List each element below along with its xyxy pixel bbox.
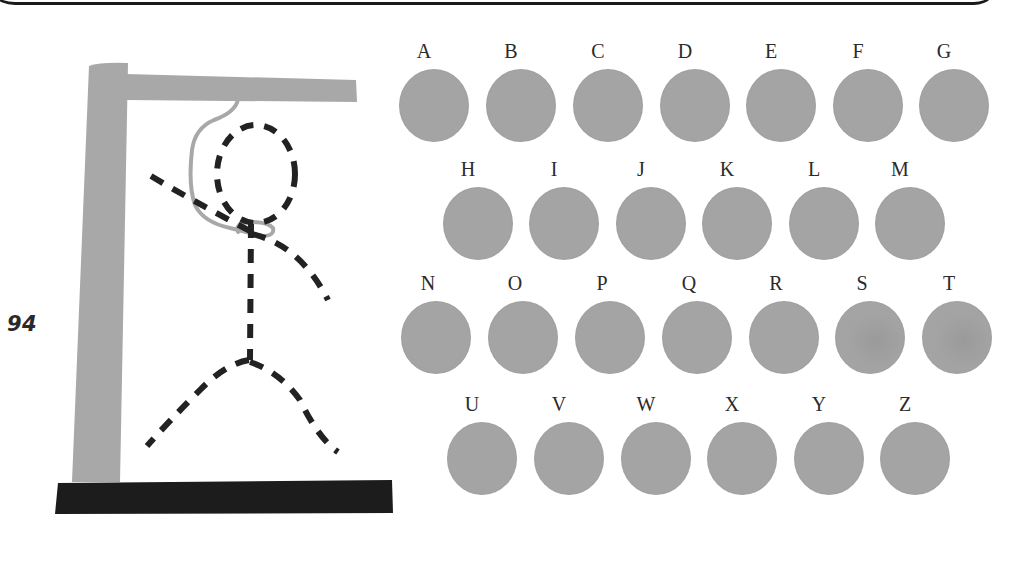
letter-circle[interactable] — [794, 422, 864, 495]
gallows-beam — [126, 74, 357, 102]
gallows-post — [72, 63, 128, 482]
letter-button-g[interactable]: G — [918, 40, 990, 144]
figure-head — [217, 125, 295, 223]
letter-circle[interactable] — [835, 301, 905, 374]
letter-circle[interactable] — [399, 69, 469, 142]
letter-button-i[interactable]: I — [528, 158, 600, 262]
letter-circle[interactable] — [621, 422, 691, 495]
letter-circle[interactable] — [922, 301, 992, 374]
letter-label: V — [523, 393, 595, 415]
letter-button-j[interactable]: J — [615, 158, 687, 262]
letter-circle[interactable] — [529, 187, 599, 260]
letter-circle[interactable] — [488, 301, 558, 374]
letter-circle[interactable] — [660, 69, 730, 142]
figure-left-arm — [151, 176, 252, 232]
letter-label: R — [740, 272, 812, 294]
letter-button-l[interactable]: L — [788, 158, 860, 262]
letter-button-x[interactable]: X — [706, 393, 778, 497]
letter-label: D — [649, 40, 721, 62]
letter-label: Q — [653, 272, 725, 294]
letter-circle[interactable] — [401, 301, 471, 374]
letter-label: W — [610, 393, 682, 415]
letter-circle[interactable] — [702, 187, 772, 260]
letter-circle[interactable] — [833, 69, 903, 142]
letter-button-a[interactable]: A — [398, 40, 470, 144]
letter-circle[interactable] — [534, 422, 604, 495]
letter-button-z[interactable]: Z — [879, 393, 951, 497]
letter-circle[interactable] — [875, 187, 945, 260]
letter-circle[interactable] — [573, 69, 643, 142]
letter-label: O — [479, 272, 551, 294]
letter-button-s[interactable]: S — [834, 272, 906, 376]
letter-circle[interactable] — [880, 422, 950, 495]
figure-right-leg — [250, 362, 338, 452]
figure-right-arm — [252, 234, 328, 300]
letter-button-r[interactable]: R — [748, 272, 820, 376]
letter-button-m[interactable]: M — [874, 158, 946, 262]
letter-label: B — [475, 40, 547, 62]
letter-button-w[interactable]: W — [620, 393, 692, 497]
letter-button-f[interactable]: F — [832, 40, 904, 144]
letter-circle[interactable] — [447, 422, 517, 495]
letter-button-c[interactable]: C — [572, 40, 644, 144]
letter-button-q[interactable]: Q — [661, 272, 733, 376]
letter-button-e[interactable]: E — [745, 40, 817, 144]
letter-circle[interactable] — [575, 301, 645, 374]
figure-body — [250, 224, 251, 360]
letter-circle[interactable] — [749, 301, 819, 374]
letter-label: J — [605, 158, 677, 180]
letter-label: C — [562, 40, 634, 62]
letter-label: F — [822, 40, 894, 62]
letter-circle[interactable] — [486, 69, 556, 142]
letter-button-p[interactable]: P — [574, 272, 646, 376]
letter-label: H — [432, 158, 504, 180]
letter-circle[interactable] — [789, 187, 859, 260]
letter-label: I — [518, 158, 590, 180]
letter-button-b[interactable]: B — [485, 40, 557, 144]
letter-button-h[interactable]: H — [442, 158, 514, 262]
letter-button-y[interactable]: Y — [793, 393, 865, 497]
letter-label: A — [388, 40, 460, 62]
letter-button-k[interactable]: K — [701, 158, 773, 262]
letter-label: E — [735, 40, 807, 62]
letter-label: K — [691, 158, 763, 180]
letter-label: T — [913, 272, 985, 294]
letter-circle[interactable] — [443, 187, 513, 260]
letter-circle[interactable] — [662, 301, 732, 374]
letter-label: Y — [783, 393, 855, 415]
letter-button-t[interactable]: T — [921, 272, 993, 376]
letter-circle[interactable] — [919, 69, 989, 142]
letter-label: X — [696, 393, 768, 415]
letter-button-u[interactable]: U — [446, 393, 518, 497]
letter-circle[interactable] — [707, 422, 777, 495]
letter-label: G — [908, 40, 980, 62]
letter-button-o[interactable]: O — [487, 272, 559, 376]
letter-label: P — [566, 272, 638, 294]
letter-button-d[interactable]: D — [659, 40, 731, 144]
hangman-drawing — [0, 0, 400, 520]
letter-button-v[interactable]: V — [533, 393, 605, 497]
rope — [191, 99, 274, 236]
letter-circle[interactable] — [746, 69, 816, 142]
letter-label: Z — [869, 393, 941, 415]
figure-left-leg — [147, 360, 249, 446]
letter-button-n[interactable]: N — [400, 272, 472, 376]
gallows-base — [55, 480, 393, 514]
letter-circle[interactable] — [616, 187, 686, 260]
letter-label: N — [392, 272, 464, 294]
letter-label: U — [436, 393, 508, 415]
letter-label: M — [864, 158, 936, 180]
letter-label: L — [778, 158, 850, 180]
letter-label: S — [826, 272, 898, 294]
